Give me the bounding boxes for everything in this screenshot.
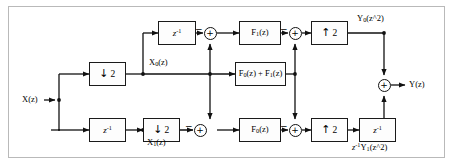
y1-arg: (z^2) (370, 142, 388, 152)
filter-middle-f0-arg: (z) (247, 68, 256, 78)
adder-output-symbol: + (380, 81, 388, 90)
block-delay-output: z-1 (359, 118, 396, 142)
filter-middle-plus: + (256, 68, 265, 78)
adder-top-right-symbol: + (291, 29, 299, 38)
block-upsampler-bottom: ↑2 (311, 118, 348, 142)
filter-top-arg: (z) (259, 27, 268, 37)
filter-middle-f1-arg: (z) (273, 68, 282, 78)
adder-bottom-right-symbol: + (291, 126, 299, 135)
delay-top-exponent: -1 (176, 27, 181, 34)
adder-top-left-negative-sign: − (195, 25, 203, 34)
adder-top-left: + (204, 27, 217, 40)
upsampler-bottom-factor: 2 (332, 125, 337, 135)
label-x0-signal: X0(z) (149, 58, 168, 67)
x1-arg: (z) (156, 137, 165, 147)
downsampler-top-factor: 2 (110, 69, 115, 79)
adder-bottom-left-symbol: + (196, 126, 204, 135)
y0-arg: (z^2) (366, 13, 384, 23)
up-arrow-icon: ↑ (321, 124, 331, 135)
block-delay-input: z-1 (89, 118, 126, 142)
adder-top-right-negative-sign: − (280, 25, 288, 34)
filter-bottom-arg: (z) (259, 124, 268, 134)
block-upsampler-top: ↑2 (311, 21, 348, 45)
up-arrow-icon: ↑ (321, 27, 331, 38)
adder-output: + (378, 79, 391, 92)
adder-bottom-right: + (289, 124, 302, 137)
label-x1-signal: X1(z) (147, 138, 166, 147)
adder-top-right: + (289, 27, 302, 40)
adder-bottom-right-negative-sign: − (280, 122, 288, 131)
down-arrow-icon: ↓ (99, 68, 109, 79)
label-input-signal: X(z) (22, 95, 38, 104)
x0-arg: (z) (158, 57, 167, 67)
adder-top-left-symbol: + (206, 29, 214, 38)
down-arrow-icon: ↓ (153, 124, 163, 135)
upsampler-top-factor: 2 (332, 28, 337, 38)
label-y0-signal: Y0(z^2) (357, 14, 384, 23)
block-filter-middle: F0(z) + F1(z) (235, 62, 286, 86)
delay-output-exponent: -1 (377, 124, 382, 131)
delay-input-exponent: -1 (107, 124, 112, 131)
input-signal-text: X(z) (22, 94, 38, 104)
label-output-signal: Y(z) (409, 80, 425, 89)
block-filter-top: F1(z) (239, 21, 281, 45)
downsampler-bottom-factor: 2 (164, 125, 169, 135)
label-y1-delayed-signal: z-1Y1(z^2) (352, 142, 387, 152)
block-filter-bottom: F0(z) (239, 118, 281, 142)
adder-bottom-left: + (194, 124, 207, 137)
block-downsampler-top: ↓2 (89, 62, 126, 86)
block-delay-top: z-1 (158, 21, 196, 45)
output-signal-text: Y(z) (409, 79, 425, 89)
adder-bottom-left-negative-sign: − (185, 122, 193, 131)
